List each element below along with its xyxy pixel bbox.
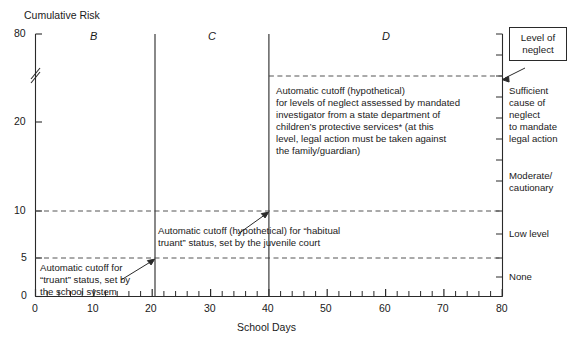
truant-annotation-line-2: “truant” status, set by: [40, 274, 130, 286]
neglect-annotation-line-6: the family/guardian): [276, 145, 460, 157]
region-label-b: B: [90, 31, 97, 42]
arrow-head-truant: [147, 259, 154, 265]
y-tick-label-5: 5: [21, 252, 27, 263]
y-tick-label-20: 20: [14, 116, 26, 127]
y-axis-title: Cumulative Risk: [24, 10, 100, 21]
vertical-dividers: [155, 34, 269, 297]
habitual-truant-annotation-line-1: Automatic cutoff (hypothetical) for “hab…: [158, 225, 340, 237]
y-tick-label-80: 80: [14, 28, 26, 39]
right-category-sufficient-line-1: Sufficient: [509, 85, 558, 97]
right-category-moderate-line-2: cautionary: [509, 182, 553, 194]
truant-annotation-line-3: the school system: [40, 286, 130, 298]
neglect-annotation-line-1: Automatic cutoff (hypothetical): [276, 85, 460, 97]
x-tick-label-80: 80: [496, 303, 508, 314]
right-category-moderate: Moderate/ cautionary: [509, 170, 553, 194]
x-tick-label-10: 10: [87, 303, 99, 314]
cumulative-risk-chart: Cumulative Risk 80 20 10 5 0 0 10 20 30 …: [0, 0, 572, 343]
x-tick-label-0: 0: [32, 303, 38, 314]
right-category-moderate-line-1: Moderate/: [509, 170, 553, 182]
right-category-sufficient-line-2: cause of: [509, 97, 558, 109]
x-tick-label-50: 50: [320, 303, 332, 314]
legend-title-line-1: Level of: [521, 32, 555, 44]
right-category-sufficient: Sufficient cause of neglect to mandate l…: [509, 85, 558, 145]
x-axis-title: School Days: [237, 322, 296, 333]
region-label-d: D: [382, 31, 390, 42]
x-tick-label-60: 60: [379, 303, 391, 314]
neglect-annotation-line-2: for levels of neglect assessed by mandat…: [276, 97, 460, 109]
habitual-truant-annotation-line-2: truant” status, set by the juvenile cour…: [158, 237, 340, 249]
right-category-low-level: Low level: [509, 228, 549, 240]
region-label-c: C: [208, 31, 216, 42]
legend-level-of-neglect-box: Level of neglect: [509, 27, 567, 61]
neglect-annotation-line-5: level, legal action must be taken agains…: [276, 133, 460, 145]
x-tick-label-70: 70: [437, 303, 449, 314]
right-axis-ticks: [496, 34, 503, 277]
legend-title-line-2: neglect: [521, 44, 555, 56]
habitual-truant-annotation: Automatic cutoff (hypothetical) for “hab…: [158, 225, 340, 249]
x-tick-label-20: 20: [145, 303, 157, 314]
truant-annotation-line-1: Automatic cutoff for: [40, 262, 130, 274]
y-tick-label-10: 10: [14, 205, 26, 216]
neglect-annotation-line-3: investigator from a state department of: [276, 109, 460, 121]
right-category-sufficient-line-4: to mandate: [509, 121, 558, 133]
neglect-annotation: Automatic cutoff (hypothetical) for leve…: [276, 85, 460, 158]
right-category-sufficient-line-5: legal action: [509, 133, 558, 145]
right-category-sufficient-line-3: neglect: [509, 109, 558, 121]
x-tick-label-40: 40: [262, 303, 274, 314]
y-tick-label-0: 0: [21, 290, 27, 301]
truant-annotation: Automatic cutoff for “truant” status, se…: [40, 262, 130, 298]
right-category-none: None: [509, 271, 532, 283]
neglect-annotation-line-4: children’s protective services* (at this: [276, 121, 460, 133]
x-tick-label-30: 30: [204, 303, 216, 314]
